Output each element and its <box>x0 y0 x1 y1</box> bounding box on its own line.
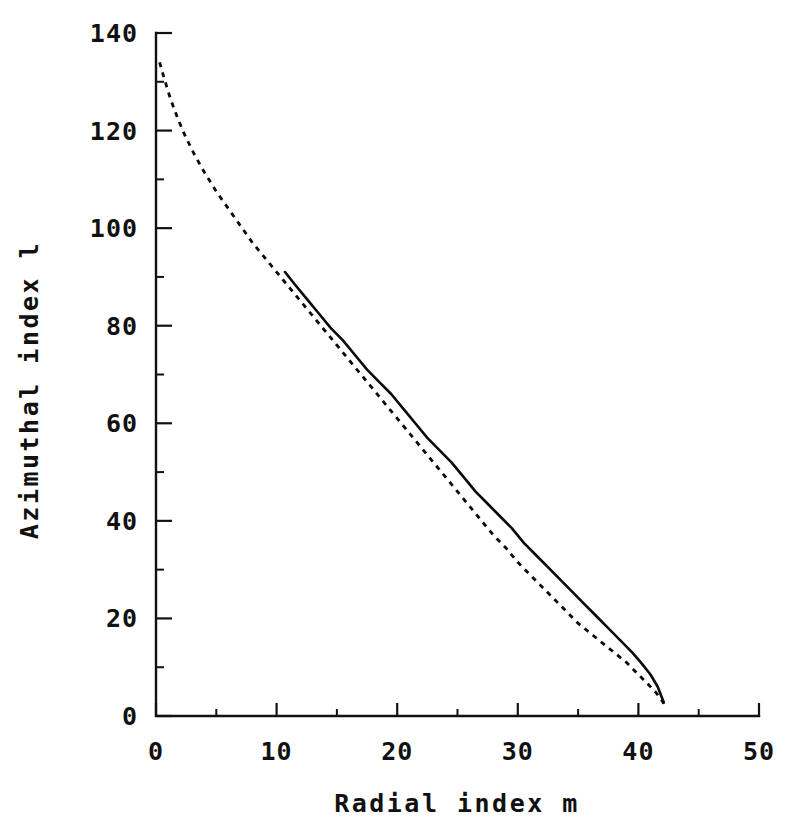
y-tick-label: 20 <box>106 604 138 633</box>
chart-svg: 01020304050 020406080100120140 Radial in… <box>0 0 793 833</box>
y-tick-label: 0 <box>122 702 138 731</box>
y-axis-title: Azimuthal index l <box>15 241 44 539</box>
x-tick-label: 30 <box>502 737 534 766</box>
y-tick-label: 100 <box>90 214 138 243</box>
y-tick-label: 140 <box>90 19 138 48</box>
x-tick-label: 20 <box>381 737 413 766</box>
y-tick-label: 40 <box>106 507 138 536</box>
x-tick-label: 0 <box>148 737 164 766</box>
y-tick-label: 120 <box>90 117 138 146</box>
x-tick-label: 50 <box>743 737 775 766</box>
chart-figure: 01020304050 020406080100120140 Radial in… <box>0 0 793 833</box>
x-tick-label: 10 <box>261 737 293 766</box>
y-tick-label: 80 <box>106 312 138 341</box>
y-tick-label: 60 <box>106 409 138 438</box>
x-tick-label: 40 <box>622 737 654 766</box>
x-axis-title: Radial index m <box>334 789 580 818</box>
